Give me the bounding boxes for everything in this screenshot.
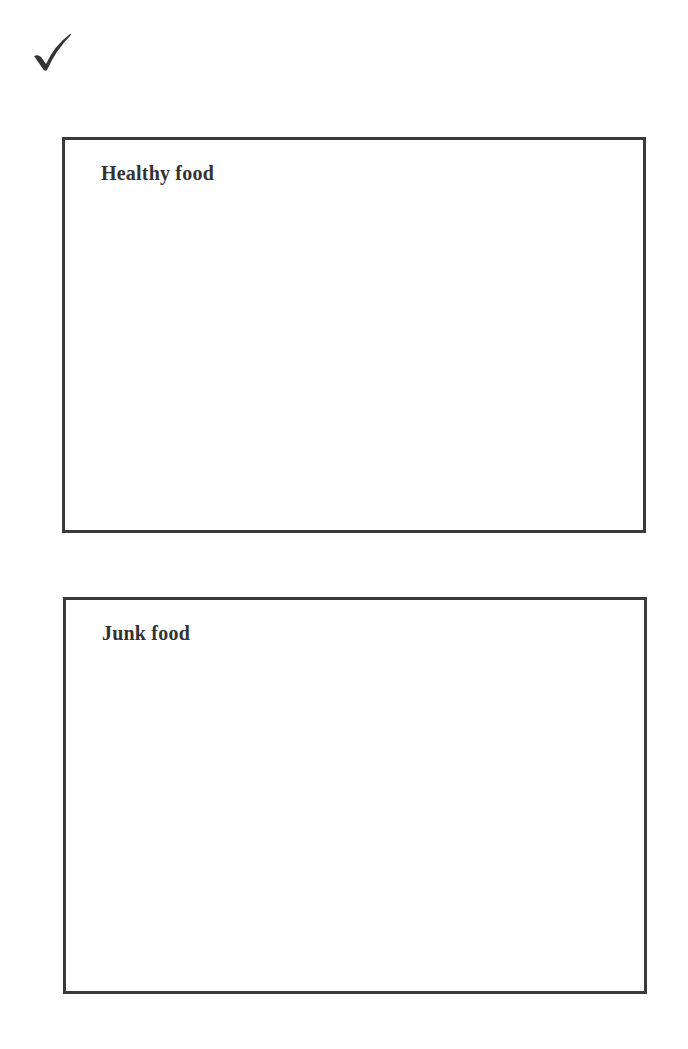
checkmark-icon: [32, 30, 74, 72]
junk-food-writing-area[interactable]: [76, 660, 634, 981]
junk-food-heading: Junk food: [102, 622, 190, 645]
healthy-food-box: Healthy food: [62, 137, 646, 533]
healthy-food-writing-area[interactable]: [75, 200, 633, 520]
healthy-food-heading: Healthy food: [101, 162, 214, 185]
junk-food-box: Junk food: [63, 597, 647, 994]
